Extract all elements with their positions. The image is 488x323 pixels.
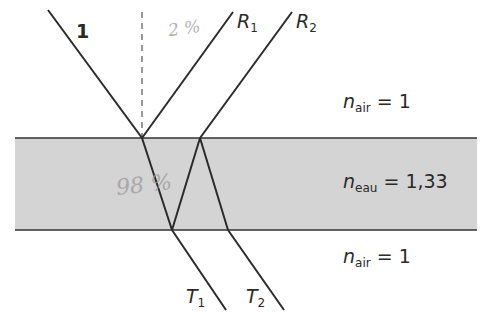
arrow-icon-t1	[190, 257, 196, 265]
index-value: = 1	[377, 245, 411, 267]
index-value: = 1	[377, 90, 411, 112]
index-symbol: n	[343, 170, 355, 192]
label-sub: 2	[309, 21, 317, 35]
label-r1: R1	[237, 12, 258, 34]
label-t2: T2	[246, 287, 265, 309]
arrow-icon-incident	[90, 67, 97, 77]
arrow-icon-r2	[238, 79, 243, 86]
index-air-bottom: nair = 1	[343, 247, 411, 269]
index-sub: air	[355, 101, 371, 115]
label-r2: R2	[296, 12, 317, 34]
index-symbol: n	[343, 90, 355, 112]
index-sub: eau	[355, 181, 377, 195]
label-text: R	[296, 10, 309, 32]
index-sub: air	[355, 256, 371, 270]
label-sub: 1	[250, 21, 258, 35]
label-text: T	[186, 285, 198, 307]
index-air-top: nair = 1	[343, 92, 411, 114]
label-sub: 2	[258, 296, 266, 310]
label-text: R	[237, 10, 250, 32]
optics-diagram	[0, 0, 488, 323]
label-sub: 1	[198, 296, 206, 310]
index-symbol: n	[343, 245, 355, 267]
arrow-icon-r1	[182, 76, 187, 83]
index-value: = 1,33	[383, 170, 447, 192]
label-incident-ray: 1	[76, 22, 89, 41]
label-t1: T1	[186, 287, 205, 309]
label-text: 1	[76, 20, 89, 42]
index-water: neau = 1,33	[343, 172, 448, 194]
label-text: T	[246, 285, 258, 307]
incident-ray	[48, 10, 142, 138]
